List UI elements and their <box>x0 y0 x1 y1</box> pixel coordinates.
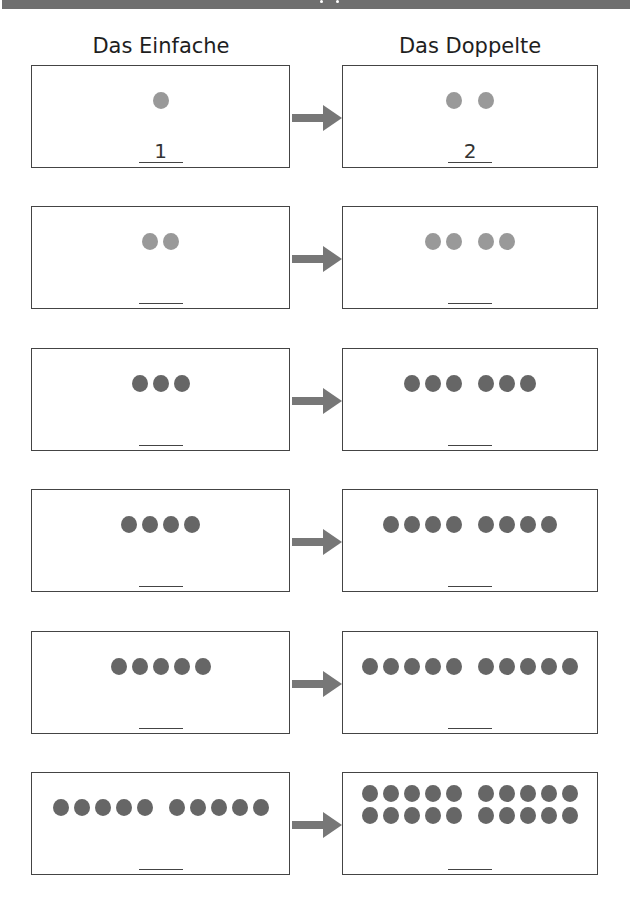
counter-dot <box>174 375 190 392</box>
counter-dot <box>195 658 211 675</box>
counter-dot <box>446 785 462 802</box>
counter-dot <box>404 375 420 392</box>
single-box <box>31 772 290 875</box>
arrow-icon <box>292 671 342 697</box>
dot-set <box>32 516 289 533</box>
dot-group <box>153 92 169 109</box>
double-box <box>342 206 598 309</box>
counter-dot <box>253 799 269 816</box>
counter-dot <box>362 658 378 675</box>
counter-dot <box>211 799 227 816</box>
counter-dot <box>132 658 148 675</box>
dot-set <box>32 799 289 816</box>
arrow-icon <box>292 812 342 838</box>
dot-group <box>142 233 179 250</box>
dot-group <box>111 658 211 675</box>
column-title-double: Das Doppelte <box>340 34 600 58</box>
counter-dot <box>111 658 127 675</box>
column-title-single: Das Einfache <box>31 34 291 58</box>
dot-set <box>343 658 597 675</box>
single-answer-field[interactable] <box>139 423 183 446</box>
dot-set <box>343 92 597 109</box>
counter-dot <box>446 807 462 824</box>
dot-set <box>343 785 597 824</box>
dot-row <box>153 92 169 109</box>
counter-dot <box>446 233 462 250</box>
dot-row <box>362 785 578 802</box>
single-answer-field[interactable] <box>139 706 183 729</box>
dot-group <box>362 785 462 802</box>
counter-dot <box>520 658 536 675</box>
exercise-row <box>0 206 633 312</box>
double-answer-field[interactable] <box>448 423 492 446</box>
dot-group <box>478 516 557 533</box>
dot-row <box>142 233 179 250</box>
counter-dot <box>142 233 158 250</box>
double-answer-field[interactable] <box>448 847 492 870</box>
counter-dot <box>137 799 153 816</box>
counter-dot <box>541 807 557 824</box>
double-answer-field[interactable]: 2 <box>448 140 492 163</box>
counter-dot <box>383 807 399 824</box>
counter-dot <box>446 92 462 109</box>
single-answer-field[interactable] <box>139 847 183 870</box>
exercise-row <box>0 348 633 454</box>
dot-group <box>446 92 462 109</box>
counter-dot <box>478 785 494 802</box>
counter-dot <box>232 799 248 816</box>
exercise-row <box>0 772 633 878</box>
counter-dot <box>425 375 441 392</box>
exercise-row <box>0 489 633 595</box>
dot-set <box>32 658 289 675</box>
double-box <box>342 631 598 734</box>
single-box <box>31 206 290 309</box>
header-bar <box>2 0 630 9</box>
counter-dot <box>142 516 158 533</box>
counter-dot <box>499 807 515 824</box>
counter-dot <box>404 658 420 675</box>
dot-group <box>121 516 200 533</box>
counter-dot <box>174 658 190 675</box>
dot-row <box>362 658 578 675</box>
exercise-row <box>0 631 633 737</box>
single-answer-field[interactable]: 1 <box>139 140 183 163</box>
dot-group <box>478 658 578 675</box>
counter-dot <box>478 375 494 392</box>
counter-dot <box>520 516 536 533</box>
dot-group <box>383 516 462 533</box>
double-answer-field[interactable] <box>448 564 492 587</box>
dot-group <box>478 785 578 802</box>
counter-dot <box>478 233 494 250</box>
header-mark <box>336 0 339 3</box>
dot-set <box>32 375 289 392</box>
counter-dot <box>153 375 169 392</box>
dot-row <box>404 375 536 392</box>
counter-dot <box>116 799 132 816</box>
double-answer-field[interactable] <box>448 281 492 304</box>
counter-dot <box>74 799 90 816</box>
double-box <box>342 348 598 451</box>
counter-dot <box>95 799 111 816</box>
single-answer-field[interactable] <box>139 564 183 587</box>
dot-group <box>362 658 462 675</box>
counter-dot <box>425 807 441 824</box>
counter-dot <box>478 807 494 824</box>
dot-row <box>425 233 515 250</box>
counter-dot <box>520 807 536 824</box>
counter-dot <box>190 799 206 816</box>
dot-set <box>343 375 597 392</box>
counter-dot <box>153 92 169 109</box>
single-box <box>31 489 290 592</box>
counter-dot <box>541 516 557 533</box>
counter-dot <box>541 785 557 802</box>
double-box: 2 <box>342 65 598 168</box>
counter-dot <box>541 658 557 675</box>
counter-dot <box>404 807 420 824</box>
counter-dot <box>499 233 515 250</box>
double-answer-field[interactable] <box>448 706 492 729</box>
double-box <box>342 489 598 592</box>
counter-dot <box>499 516 515 533</box>
dot-group <box>478 375 536 392</box>
dot-group <box>478 92 494 109</box>
single-answer-field[interactable] <box>139 281 183 304</box>
